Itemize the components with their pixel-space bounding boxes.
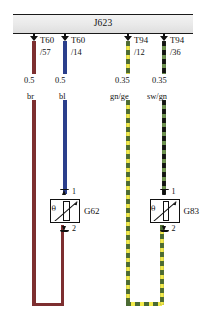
pin-label-gnge: /12 [134, 48, 145, 57]
gauge-label-swgn: 0.35 [152, 76, 167, 85]
pin-label-br: /57 [40, 48, 51, 57]
sensor-g62-arrow-tip-icon [74, 201, 77, 204]
sensor-g62-label: G62 [84, 206, 100, 216]
wire-segment-br-top [32, 41, 35, 74]
wiring-diagram-canvas: J623 T60 /57 T60 /14 T94 /12 T94 /36 0.5… [0, 0, 205, 320]
sensor-g62-pin1-connector [60, 189, 69, 197]
component-g62[interactable]: θ [50, 199, 80, 223]
gauge-label-bl: 0.5 [55, 76, 65, 85]
wire-segment-br-left [32, 100, 35, 306]
terminal-label-br: T60 [40, 35, 54, 45]
wire-segment-gnge-left [126, 100, 130, 304]
sensor-g62-pin2-number: 2 [72, 224, 76, 233]
sensor-g83-label: G83 [184, 206, 200, 216]
sensor-g83-pin1-number: 1 [172, 187, 176, 196]
wire-segment-gnge-riser [160, 225, 164, 305]
component-g83[interactable]: θ [150, 199, 180, 223]
wire-segment-bl-main [63, 100, 66, 194]
sensor-g83-pin2-connector [160, 224, 169, 232]
pin-label-bl: /14 [71, 48, 82, 57]
terminal-label-bl: T60 [71, 35, 85, 45]
connector-header-bar: J623 [13, 14, 193, 34]
wire-segment-gnge-top [126, 41, 130, 74]
terminal-label-gnge: T94 [134, 35, 148, 45]
sensor-g83-pin1-connector [160, 189, 169, 197]
sensor-g83-pin2-number: 2 [172, 224, 176, 233]
gauge-label-gnge: 0.35 [115, 76, 130, 85]
pin-label-swgn: /36 [170, 48, 181, 57]
wire-segment-bl-top [63, 41, 66, 74]
sensor-g62-pin2-connector [60, 224, 69, 232]
wire-segment-swgn-main [162, 100, 166, 194]
wire-segment-gnge-bottom [126, 302, 162, 306]
wire-segment-swgn-top [162, 41, 166, 74]
wire-segment-br-riser [61, 225, 64, 306]
sensor-g62-pin1-number: 1 [72, 187, 76, 196]
connector-header-label: J623 [13, 18, 193, 28]
gauge-label-br: 0.5 [24, 76, 34, 85]
terminal-label-swgn: T94 [170, 35, 184, 45]
wire-segment-br-bottom [32, 303, 63, 306]
